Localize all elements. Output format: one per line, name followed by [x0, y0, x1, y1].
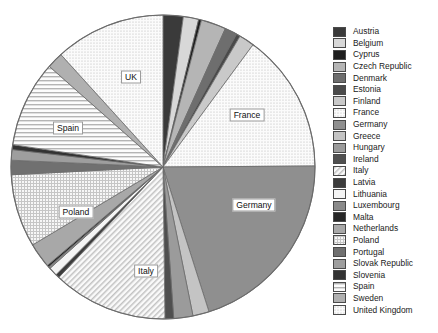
legend-swatch-icon: [333, 38, 346, 48]
legend-item-france[interactable]: France: [333, 107, 438, 119]
legend-item-hungary[interactable]: Hungary: [333, 142, 438, 154]
legend-label: Finland: [353, 97, 380, 106]
legend-swatch-icon: [333, 143, 346, 153]
legend-label: Hungary: [353, 143, 385, 152]
legend-item-netherlands[interactable]: Netherlands: [333, 223, 438, 235]
legend-label: Czech Republic: [353, 62, 412, 71]
legend-swatch-icon: [333, 259, 346, 269]
pie-plot-area: UKFranceGermanyItalyPolandSpain: [0, 0, 330, 333]
legend-swatch-icon: [333, 305, 346, 315]
legend-label: Greece: [353, 132, 380, 141]
legend-item-malta[interactable]: Malta: [333, 212, 438, 224]
legend: AustriaBelgiumCyprusCzech RepublicDenmar…: [333, 26, 438, 316]
legend-swatch-icon: [333, 27, 346, 37]
slice-label-poland: Poland: [59, 206, 94, 219]
legend-swatch-icon: [333, 201, 346, 211]
slice-label-germany: Germany: [232, 199, 275, 212]
legend-item-cyprus[interactable]: Cyprus: [333, 49, 438, 61]
legend-item-sweden[interactable]: Sweden: [333, 293, 438, 305]
legend-swatch-icon: [333, 235, 346, 245]
legend-label: Netherlands: [353, 224, 398, 233]
legend-label: Portugal: [353, 248, 384, 257]
legend-swatch-icon: [333, 85, 346, 95]
legend-item-estonia[interactable]: Estonia: [333, 84, 438, 96]
legend-swatch-icon: [333, 96, 346, 106]
legend-swatch-icon: [333, 154, 346, 164]
legend-label: Belgium: [353, 39, 383, 48]
legend-item-italy[interactable]: Italy: [333, 165, 438, 177]
legend-item-spain[interactable]: Spain: [333, 281, 438, 293]
pie-chart-figure: UKFranceGermanyItalyPolandSpain AustriaB…: [0, 0, 438, 333]
legend-swatch-icon: [333, 270, 346, 280]
slice-label-france: France: [230, 109, 265, 122]
legend-label: Estonia: [353, 85, 381, 94]
slice-label-italy: Italy: [134, 265, 158, 278]
legend-label: Spain: [353, 282, 374, 291]
legend-label: Austria: [353, 27, 379, 36]
legend-label: Luxembourg: [353, 201, 400, 210]
legend-swatch-icon: [333, 166, 346, 176]
legend-item-lithuania[interactable]: Lithuania: [333, 188, 438, 200]
legend-swatch-icon: [333, 189, 346, 199]
legend-item-slovenia[interactable]: Slovenia: [333, 269, 438, 281]
legend-item-germany[interactable]: Germany: [333, 119, 438, 131]
legend-swatch-icon: [333, 62, 346, 72]
legend-label: Ireland: [353, 155, 379, 164]
slice-label-uk: UK: [121, 71, 141, 84]
legend-swatch-icon: [333, 212, 346, 222]
legend-item-portugal[interactable]: Portugal: [333, 246, 438, 258]
legend-swatch-icon: [333, 108, 346, 118]
legend-item-united-kingdom[interactable]: United Kingdom: [333, 304, 438, 316]
legend-swatch-icon: [333, 120, 346, 130]
legend-item-belgium[interactable]: Belgium: [333, 38, 438, 50]
legend-label: France: [353, 108, 379, 117]
legend-swatch-icon: [333, 224, 346, 234]
pie-svg: [0, 0, 330, 333]
legend-label: Slovak Republic: [353, 259, 413, 268]
legend-item-slovak-republic[interactable]: Slovak Republic: [333, 258, 438, 270]
legend-label: Slovenia: [353, 271, 385, 280]
legend-label: Denmark: [353, 74, 387, 83]
legend-item-denmark[interactable]: Denmark: [333, 72, 438, 84]
legend-label: Italy: [353, 166, 368, 175]
legend-item-greece[interactable]: Greece: [333, 130, 438, 142]
legend-label: Germany: [353, 120, 387, 129]
legend-swatch-icon: [333, 293, 346, 303]
legend-swatch-icon: [333, 131, 346, 141]
legend-swatch-icon: [333, 50, 346, 60]
legend-label: Latvia: [353, 178, 375, 187]
slice-label-spain: Spain: [53, 122, 83, 135]
legend-item-czech-republic[interactable]: Czech Republic: [333, 61, 438, 73]
legend-label: Cyprus: [353, 50, 380, 59]
legend-swatch-icon: [333, 282, 346, 292]
legend-item-ireland[interactable]: Ireland: [333, 154, 438, 166]
legend-item-poland[interactable]: Poland: [333, 235, 438, 247]
legend-item-latvia[interactable]: Latvia: [333, 177, 438, 189]
legend-label: Sweden: [353, 294, 383, 303]
legend-label: United Kingdom: [353, 306, 413, 315]
legend-swatch-icon: [333, 247, 346, 257]
legend-item-luxembourg[interactable]: Luxembourg: [333, 200, 438, 212]
legend-item-austria[interactable]: Austria: [333, 26, 438, 38]
legend-label: Malta: [353, 213, 373, 222]
legend-label: Poland: [353, 236, 379, 245]
legend-swatch-icon: [333, 178, 346, 188]
legend-swatch-icon: [333, 73, 346, 83]
legend-label: Lithuania: [353, 190, 387, 199]
legend-item-finland[interactable]: Finland: [333, 96, 438, 108]
